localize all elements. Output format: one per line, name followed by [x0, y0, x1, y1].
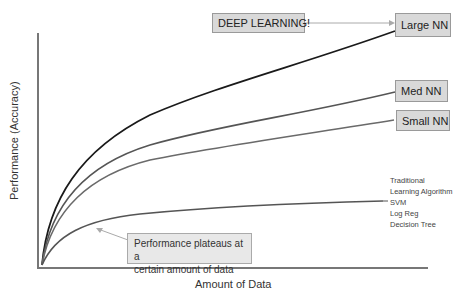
traditional-line: Learning Algorithm [390, 186, 453, 197]
plateau-annotation: Performance plateaus at a certain amount… [127, 233, 252, 264]
y-axis-label: Performance (Accuracy) [8, 81, 20, 200]
small-nn-label: Small NN [396, 110, 450, 131]
deep-learning-label: DEEP LEARNING! [212, 13, 305, 33]
plateau-line: Performance plateaus at a [134, 237, 245, 263]
traditional-line: Log Reg [390, 208, 453, 219]
plateau-arrow [98, 229, 128, 240]
traditional-label: Traditional Learning Algorithm SVM Log R… [390, 175, 453, 230]
traditional-line: Traditional [390, 175, 453, 186]
med-nn-label: Med NN [395, 80, 448, 102]
traditional-line: SVM [390, 197, 453, 208]
x-axis-label: Amount of Data [195, 278, 271, 290]
plateau-line: certain amount of data [134, 263, 245, 276]
traditional-line: Decision Tree [390, 219, 453, 230]
large-nn-label: Large NN [395, 13, 451, 37]
